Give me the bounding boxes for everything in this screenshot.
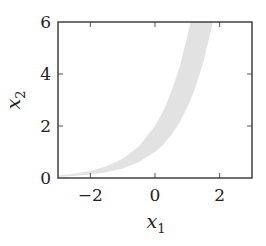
- x-axis-label: x1: [147, 210, 166, 236]
- y-tick-label: 0: [40, 168, 51, 188]
- y-tick-labels: 0246: [40, 12, 51, 188]
- ticks: [58, 22, 252, 178]
- chart: −202 0246 x1 x2: [0, 0, 266, 246]
- y-tick-label: 4: [40, 64, 51, 84]
- plot-frame: [58, 22, 252, 178]
- x-tick-labels: −202: [78, 185, 225, 205]
- x-tick-label: 0: [150, 185, 161, 205]
- shaded-band: [58, 22, 213, 177]
- x-tick-label: 2: [214, 185, 225, 205]
- y-tick-label: 6: [40, 12, 51, 32]
- y-tick-label: 2: [40, 116, 51, 136]
- plot-area: [58, 22, 213, 177]
- x-tick-label: −2: [78, 185, 103, 205]
- y-axis-label: x2: [2, 91, 28, 110]
